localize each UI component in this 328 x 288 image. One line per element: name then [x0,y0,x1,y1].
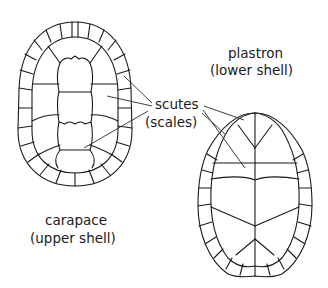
carapace-sublabel: (upper shell) [30,230,116,246]
carapace-costal-scutes [32,46,118,155]
carapace-label: carapace [45,212,107,228]
carapace-inner-outline [32,37,118,173]
plastron-drawing [198,113,312,277]
plastron-label: plastron [228,45,283,61]
carapace-marginal-scutes [18,22,132,186]
carapace-vertebral-scutes [56,56,94,168]
scutes-label: scutes [155,96,199,112]
turtle-shell-diagram: scutes (scales) plastron (lower shell) c… [0,0,328,288]
carapace-drawing [18,22,132,186]
plastron-sublabel: (lower shell) [210,62,293,78]
scales-sublabel: (scales) [145,114,197,130]
carapace-outer-outline [18,22,132,186]
